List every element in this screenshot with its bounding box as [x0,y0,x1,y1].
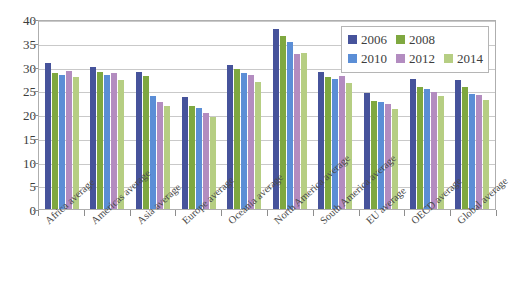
bar [45,63,51,209]
y-tick-label: 5 [2,180,36,193]
bar [294,54,300,209]
x-tick-mark [496,210,497,216]
legend-row: 201020122014 [348,49,483,68]
legend-item-2008[interactable]: 2008 [396,33,435,46]
bar [66,71,72,209]
legend-swatch-icon [348,54,357,63]
bar [182,97,188,209]
y-tick-label: 30 [2,62,36,75]
bar [150,96,156,209]
legend-swatch-icon [396,54,405,63]
legend-label: 2010 [361,52,387,65]
legend: 20062008201020122014 [341,26,489,73]
bar [424,89,430,209]
bar [301,53,307,209]
bar [469,94,475,209]
bar [143,76,149,209]
caption [6,297,500,306]
bar [104,75,110,209]
y-tick-label: 20 [2,109,36,122]
bar-group [39,21,85,209]
bar [241,73,247,209]
legend-item-2010[interactable]: 2010 [348,52,387,65]
bar [189,106,195,209]
legend-label: 2012 [409,52,435,65]
legend-label: 2008 [409,33,435,46]
legend-swatch-icon [348,35,357,44]
y-tick-label: 0 [2,204,36,217]
bar [410,79,416,209]
bar [52,73,58,209]
legend-item-2006[interactable]: 2006 [348,33,387,46]
bar-group [176,21,222,209]
legend-item-2014[interactable]: 2014 [444,52,483,65]
legend-row: 20062008 [348,30,483,49]
bar [462,87,468,209]
legend-swatch-icon [396,35,405,44]
bar [196,108,202,209]
bar [476,95,482,209]
bar [339,76,345,209]
legend-label: 2014 [457,52,483,65]
legend-item-2012[interactable]: 2012 [396,52,435,65]
bar [417,87,423,209]
bar [325,77,331,209]
bar [364,93,370,209]
y-tick-label: 10 [2,157,36,170]
bar [431,92,437,209]
y-tick-label: 35 [2,38,36,51]
bar [111,73,117,209]
bar [248,75,254,209]
legend-swatch-icon [444,54,453,63]
y-tick-label: 40 [2,14,36,27]
bar [97,72,103,209]
y-tick-label: 25 [2,85,36,98]
bar [371,101,377,209]
bar [59,75,65,209]
bar [287,42,293,209]
y-axis: 4035302520151050 [0,20,36,210]
bar [234,69,240,209]
x-axis-labels: Africa averageAmericas averageAsia avera… [38,212,496,292]
legend-label: 2006 [361,33,387,46]
bar [378,102,384,209]
bar [332,79,338,209]
y-tick-label: 15 [2,133,36,146]
